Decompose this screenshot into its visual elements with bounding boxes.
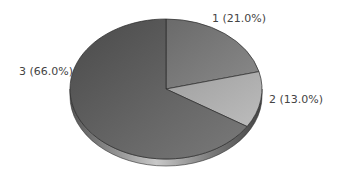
slice-label-2: 2 (13.0%)	[269, 93, 323, 106]
slice-label-3: 3 (66.0%)	[19, 65, 73, 78]
pie-chart	[0, 0, 342, 184]
pie-group	[70, 19, 262, 166]
slice-label-1: 1 (21.0%)	[212, 12, 266, 25]
